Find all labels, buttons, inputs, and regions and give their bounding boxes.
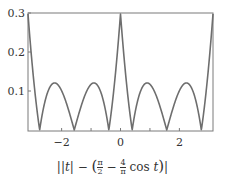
y-tick-label: 0.1 xyxy=(8,85,26,98)
minus2: − xyxy=(107,160,117,174)
y-tick-label: 0.2 xyxy=(8,46,26,59)
abs-close: | xyxy=(164,160,168,174)
x-tick-label: −2 xyxy=(54,136,70,149)
data-curve xyxy=(28,14,213,130)
cos-t: cos t xyxy=(129,160,158,174)
minus: − xyxy=(78,160,88,174)
pi-over-2: π2 xyxy=(97,159,102,176)
four-over-pi: 4π xyxy=(120,159,125,176)
abs-inner-close: | xyxy=(70,160,74,174)
y-tick-label: 0.3 xyxy=(8,7,26,20)
plot-border xyxy=(28,13,213,131)
x-tick-label: 0 xyxy=(117,136,124,149)
x-axis-label: ||t| − (π2 − 4π cos t)| xyxy=(0,157,225,176)
y-axis: 0.10.20.3 xyxy=(8,7,32,98)
x-tick-label: 2 xyxy=(176,136,183,149)
plot-frame xyxy=(28,13,213,131)
